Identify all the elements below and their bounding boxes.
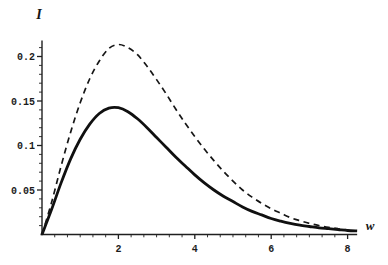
x-tick-label: 6: [268, 244, 274, 255]
plot-figure: 24680.050.10.150.2 I w: [0, 0, 388, 265]
y-tick-label: 0.1: [17, 141, 35, 152]
x-tick-label: 4: [192, 244, 198, 255]
x-axis-label: w: [366, 218, 375, 233]
curves: [42, 44, 357, 234]
y-tick-label: 0.2: [17, 52, 35, 63]
y-tick-label: 0.05: [11, 186, 35, 197]
dashed-curve: [42, 44, 348, 234]
solid-curve: [42, 107, 357, 234]
x-tick-label: 8: [345, 244, 351, 255]
x-tick-label: 2: [115, 244, 121, 255]
axis-ticks: [37, 48, 348, 239]
y-tick-label: 0.15: [11, 97, 35, 108]
line-chart: 24680.050.10.150.2 I w: [0, 0, 388, 265]
axes: [41, 40, 358, 235]
y-axis-label: I: [35, 7, 42, 22]
